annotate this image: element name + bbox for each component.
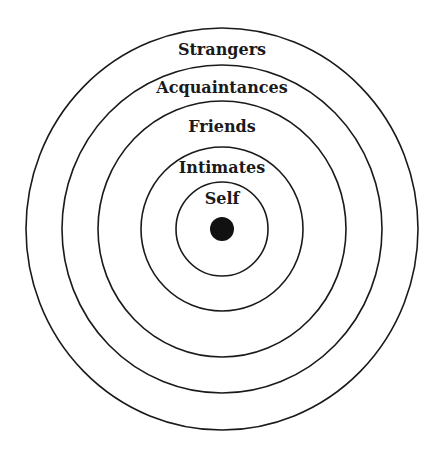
label-strangers: Strangers: [178, 40, 266, 59]
label-friends: Friends: [188, 117, 256, 136]
concentric-relationship-diagram: Strangers Acquaintances Friends Intimate…: [0, 0, 442, 452]
self-core-dot: [210, 217, 234, 241]
label-intimates: Intimates: [179, 158, 265, 177]
label-acquaintances: Acquaintances: [155, 78, 287, 97]
label-self: Self: [205, 189, 241, 208]
